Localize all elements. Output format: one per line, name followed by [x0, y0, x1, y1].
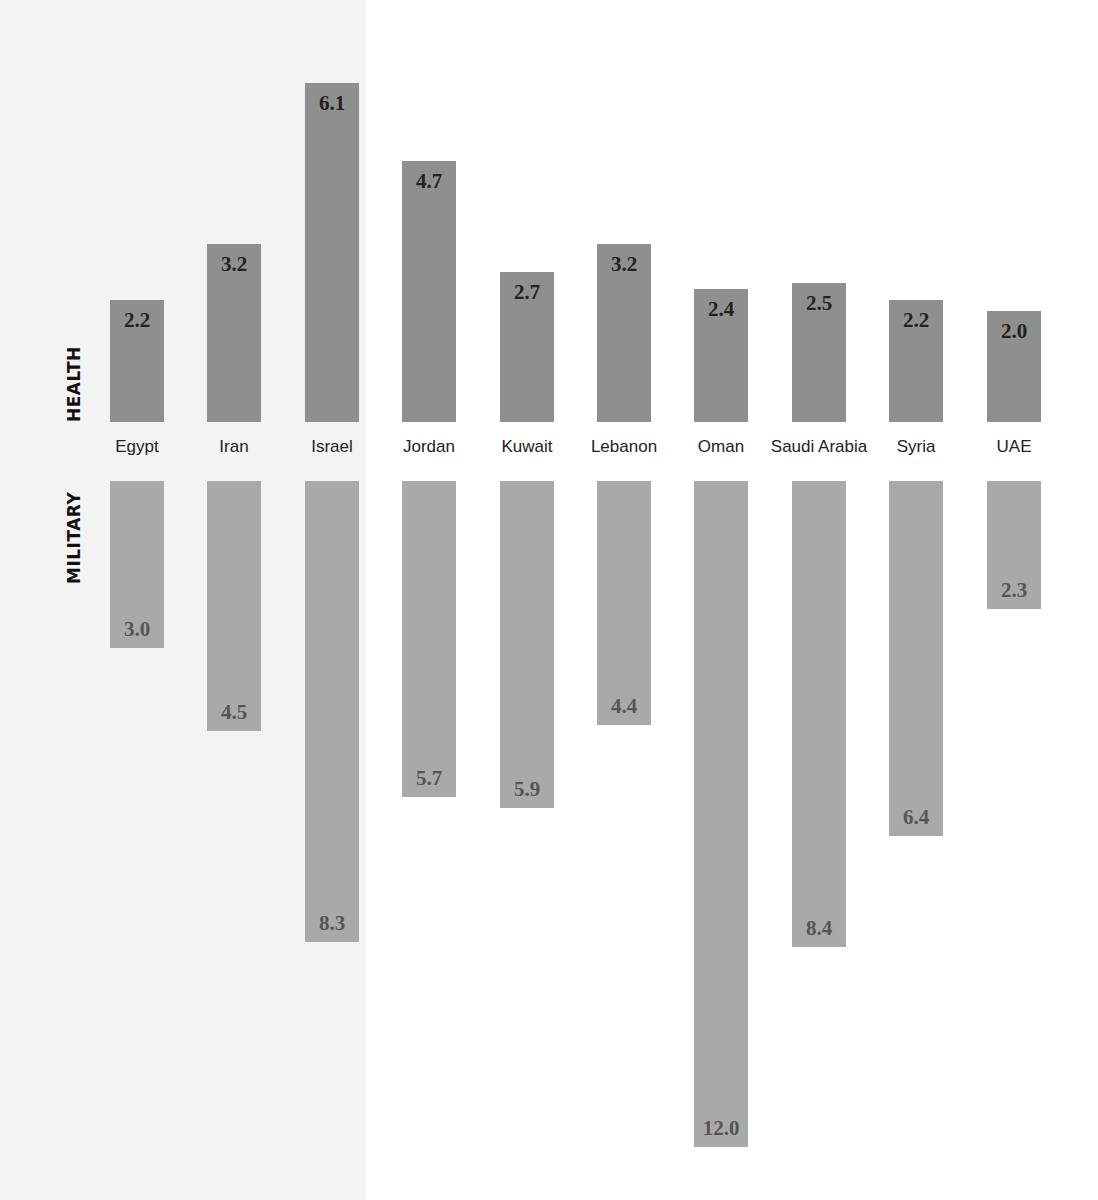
health-value-label: 2.7 [500, 280, 554, 305]
military-value-label: 3.0 [110, 617, 164, 642]
health-value-label: 2.2 [889, 308, 943, 333]
military-value-label: 4.4 [597, 694, 651, 719]
health-value-label: 3.2 [207, 252, 261, 277]
military-value-label: 2.3 [987, 578, 1041, 603]
health-bar-iran: 3.2 [207, 244, 261, 422]
military-value-label: 8.3 [305, 911, 359, 936]
military-value-label: 5.9 [500, 777, 554, 802]
health-value-label: 3.2 [597, 252, 651, 277]
health-value-label: 2.0 [987, 319, 1041, 344]
health-bar-uae: 2.0 [987, 311, 1041, 422]
health-value-label: 2.5 [792, 291, 846, 316]
health-series-label: HEALTH [64, 346, 84, 422]
military-series-label: MILITARY [64, 492, 84, 584]
health-value-label: 2.4 [694, 297, 748, 322]
military-value-label: 8.4 [792, 916, 846, 941]
military-bar-jordan: 5.7 [402, 481, 456, 797]
military-value-label: 4.5 [207, 700, 261, 725]
country-label-uae: UAE [954, 437, 1074, 457]
health-bar-israel: 6.1 [305, 83, 359, 422]
health-bar-saudi-arabia: 2.5 [792, 283, 846, 422]
health-bar-egypt: 2.2 [110, 300, 164, 422]
military-bar-iran: 4.5 [207, 481, 261, 731]
military-value-label: 6.4 [889, 805, 943, 830]
military-bar-lebanon: 4.4 [597, 481, 651, 725]
health-bar-oman: 2.4 [694, 289, 748, 422]
health-value-label: 4.7 [402, 169, 456, 194]
military-bar-kuwait: 5.9 [500, 481, 554, 808]
health-value-label: 6.1 [305, 91, 359, 116]
military-bar-syria: 6.4 [889, 481, 943, 836]
health-bar-kuwait: 2.7 [500, 272, 554, 422]
health-value-label: 2.2 [110, 308, 164, 333]
military-bar-saudi-arabia: 8.4 [792, 481, 846, 947]
health-bar-syria: 2.2 [889, 300, 943, 422]
military-bar-egypt: 3.0 [110, 481, 164, 648]
military-bar-oman: 12.0 [694, 481, 748, 1147]
military-bar-uae: 2.3 [987, 481, 1041, 609]
military-value-label: 5.7 [402, 766, 456, 791]
military-value-label: 12.0 [694, 1116, 748, 1141]
health-bar-lebanon: 3.2 [597, 244, 651, 422]
health-bar-jordan: 4.7 [402, 161, 456, 422]
military-bar-israel: 8.3 [305, 481, 359, 942]
